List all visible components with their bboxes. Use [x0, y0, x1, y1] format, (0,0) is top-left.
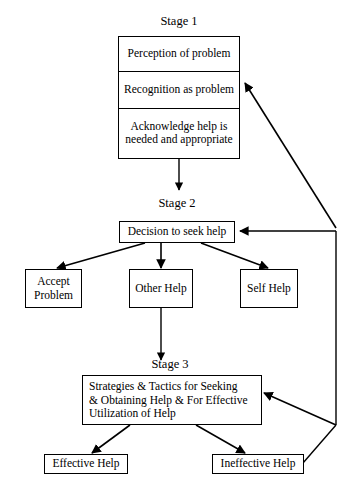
accept-problem-line2: Problem: [34, 289, 73, 303]
edge-stage3-to-effective-help: [92, 425, 130, 453]
decision-to-seek-help-label: Decision to seek help: [128, 225, 227, 239]
stage-3-line3: Utilization of Help: [89, 407, 176, 421]
edge-stage3-to-ineffective-help: [196, 425, 245, 453]
edge-decision-to-accept-problem: [57, 243, 145, 268]
other-help-label: Other Help: [135, 282, 186, 296]
stage-1-row-acknowledge: Acknowledge help is needed and appropria…: [119, 108, 239, 158]
stage-1-row-acknowledge-line2: needed and appropriate: [125, 133, 232, 147]
stage-3-line1: Strategies & Tactics for Seeking: [89, 380, 237, 394]
other-help-box: Other Help: [129, 269, 193, 308]
stage-1-row-perception-label: Perception of problem: [128, 47, 231, 61]
flowchart-diagram: Stage 1 Perception of problem Recognitio…: [0, 0, 355, 502]
accept-problem-line1: Accept: [37, 275, 70, 289]
effective-help-label: Effective Help: [52, 457, 119, 471]
edge-junction-to-stage3: [264, 393, 336, 425]
edge-feedback-to-stage1: [245, 83, 336, 228]
stage-1-row-recognition-label: Recognition as problem: [124, 83, 234, 97]
stage-3-box: Strategies & Tactics for Seeking & Obtai…: [82, 375, 262, 425]
stage-2-label: Stage 2: [119, 196, 235, 211]
stage-1-row-recognition: Recognition as problem: [119, 71, 239, 107]
ineffective-help-label: Ineffective Help: [221, 457, 296, 471]
ineffective-help-box: Ineffective Help: [212, 454, 304, 474]
stage-1-label: Stage 1: [118, 14, 240, 29]
decision-to-seek-help-box: Decision to seek help: [119, 221, 235, 243]
effective-help-box: Effective Help: [44, 454, 128, 474]
stage-1-row-acknowledge-line1: Acknowledge help is: [130, 120, 227, 134]
stage-3-line2: & Obtaining Help & For Effective: [89, 394, 248, 408]
edge-decision-to-self-help: [201, 243, 268, 268]
edge-ineffective-help-to-junction: [303, 425, 336, 463]
self-help-box: Self Help: [240, 269, 298, 308]
stage-1-row-perception: Perception of problem: [119, 37, 239, 71]
self-help-label: Self Help: [247, 282, 291, 296]
accept-problem-box: Accept Problem: [25, 269, 82, 308]
stage-3-label: Stage 3: [82, 357, 258, 372]
stage-1-box: Perception of problem Recognition as pro…: [118, 36, 240, 159]
